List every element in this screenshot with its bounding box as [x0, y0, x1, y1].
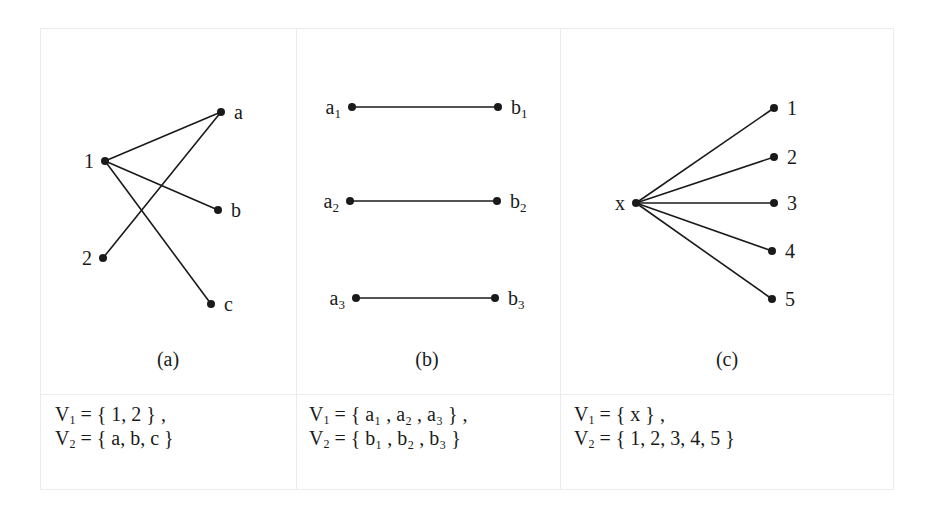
set-a-v1: V1 = { 1, 2 } , [55, 402, 166, 429]
vertex-label-2: 2 [787, 146, 797, 168]
vertex-2 [99, 254, 107, 262]
set-subscript: 1 [588, 413, 594, 427]
set-elements: = { b₁ , b₂ , b₃ } [329, 427, 460, 449]
vertex-label-b2: b2 [510, 190, 527, 215]
vertex-label-2: 2 [82, 247, 92, 269]
vertex-label-1: 1 [84, 150, 94, 172]
edge-1-a [105, 112, 221, 161]
vertex-a1 [348, 103, 356, 111]
vertex-x [632, 199, 640, 207]
edge-x-1 [636, 108, 774, 203]
vertex-label-b3: b3 [508, 287, 525, 312]
vertex-1 [101, 157, 109, 165]
vertex-1 [770, 104, 778, 112]
vertex-b [214, 206, 222, 214]
vertex-label-c: c [224, 293, 233, 315]
set-elements: = { a, b, c } [75, 427, 173, 449]
vertex-5 [768, 295, 776, 303]
vertex-label-a3: a3 [330, 287, 345, 312]
set-a-v2: V2 = { a, b, c } [55, 426, 174, 453]
edge-x-2 [636, 157, 774, 203]
vertex-b1 [494, 103, 502, 111]
vertex-b3 [491, 294, 499, 302]
vertex-label-1: 1 [787, 97, 797, 119]
vertex-label-b1: b1 [511, 96, 528, 121]
set-c-v2: V2 = { 1, 2, 3, 4, 5 } [574, 426, 735, 453]
graph-panel-b: a1a2a3b1b2b3 [324, 96, 528, 312]
edge-2-a [103, 112, 221, 258]
set-elements: = { a₁ , a₂ , a₃ } , [329, 403, 467, 425]
vertex-a2 [346, 197, 354, 205]
vertex-a3 [352, 294, 360, 302]
set-c-v1: V1 = { x } , [574, 402, 665, 429]
set-subscript: 2 [588, 437, 594, 451]
vertex-label-b: b [231, 199, 241, 221]
vertex-label-5: 5 [785, 288, 795, 310]
set-elements: = { 1, 2, 3, 4, 5 } [594, 427, 734, 449]
vertex-label-3: 3 [787, 192, 797, 214]
set-elements: = { x } , [594, 403, 664, 425]
set-name: V [574, 403, 588, 425]
set-subscript: 2 [69, 437, 75, 451]
vertex-label-4: 4 [785, 240, 795, 262]
vertex-a [217, 108, 225, 116]
graph-panel-c: x12345 [615, 97, 797, 310]
vertex-4 [768, 247, 776, 255]
vertex-3 [770, 199, 778, 207]
set-subscript: 1 [323, 413, 329, 427]
vertex-label-a2: a2 [324, 190, 339, 215]
set-name: V [309, 427, 323, 449]
set-name: V [309, 403, 323, 425]
vertex-label-a1: a1 [326, 96, 341, 121]
set-elements: = { 1, 2 } , [75, 403, 165, 425]
edge-x-4 [636, 203, 772, 251]
edge-x-5 [636, 203, 772, 299]
set-b-v1: V1 = { a₁ , a₂ , a₃ } , [309, 402, 467, 429]
edge-1-c [105, 161, 211, 304]
set-subscript: 2 [323, 437, 329, 451]
vertex-label-a: a [234, 101, 243, 123]
set-subscript: 1 [69, 413, 75, 427]
graph-panel-a: 12abc [82, 101, 243, 315]
set-name: V [55, 403, 69, 425]
set-b-v2: V2 = { b₁ , b₂ , b₃ } [309, 426, 461, 453]
vertex-2 [770, 153, 778, 161]
vertex-c [207, 300, 215, 308]
set-name: V [574, 427, 588, 449]
vertex-label-x: x [615, 192, 625, 214]
vertex-b2 [493, 197, 501, 205]
bipartite-graph-figure: 12abca1a2a3b1b2b3x12345 (a) (b) (c) V1 =… [0, 0, 925, 525]
set-name: V [55, 427, 69, 449]
